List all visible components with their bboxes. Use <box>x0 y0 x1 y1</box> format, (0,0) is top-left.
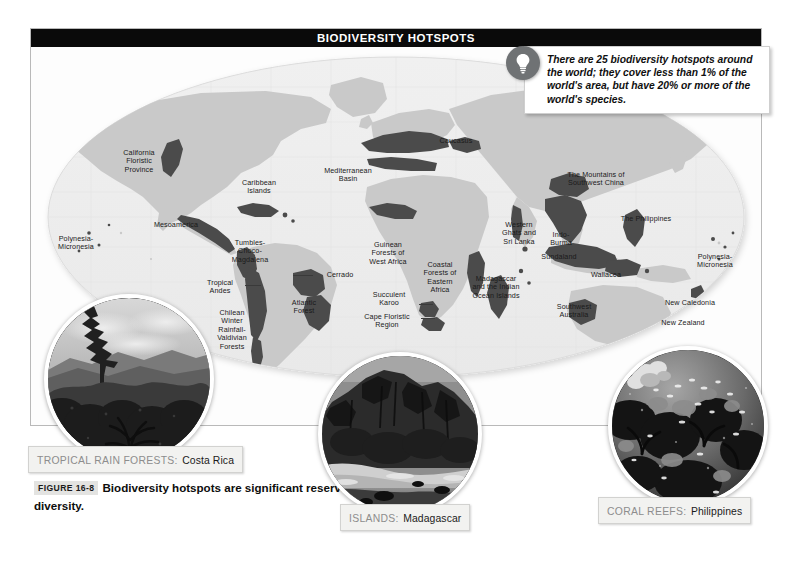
leader-line-succulent-karoo <box>419 304 433 305</box>
photo-islands <box>318 352 482 516</box>
caption-category-tropical-rain-forests: TROPICAL RAIN FORESTS: <box>37 455 178 466</box>
map-label-mesoamerica: Mesoamerica <box>136 221 216 229</box>
lightbulb-glyph <box>513 52 533 74</box>
map-label-wallacea: Wallacea <box>577 271 635 279</box>
map-label-new-zealand: New Zealand <box>647 319 719 327</box>
leader-line-cerrado <box>293 275 313 276</box>
map-label-california-floristic-province: California Floristic Province <box>99 149 179 174</box>
photo-tropical-rain-forests-image <box>48 298 210 460</box>
caption-islands: ISLANDS: Madagascar <box>340 504 470 531</box>
map-label-atlantic-forest: Atlantic Forest <box>279 299 329 316</box>
caption-tropical-rain-forests: TROPICAL RAIN FORESTS: Costa Rica <box>28 446 243 473</box>
figure-title-bar: BIODIVERSITY HOTSPOTS <box>31 29 761 47</box>
map-label-southwest-australia: Southwest Australia <box>543 303 605 320</box>
map-label-mediterranean-basin: Mediterranean Basin <box>307 167 389 184</box>
map-label-new-caledonia: New Caledonia <box>651 299 729 307</box>
map-label-caucasus: Caucasus <box>425 137 487 145</box>
photo-coral-reefs <box>608 346 768 506</box>
lightbulb-icon <box>506 46 540 80</box>
caption-category-coral-reefs: CORAL REEFS: <box>607 506 686 517</box>
map-label-succulent-karoo: Succulent Karoo <box>361 291 417 308</box>
map-label-tropical-andes: Tropical Andes <box>191 279 249 296</box>
figure-title: BIODIVERSITY HOTSPOTS <box>317 32 475 44</box>
map-label-madagascar-and-the-indian-ocean-islands: Madagascar and the Indian Ocean Islands <box>461 275 531 300</box>
map-label-polynesia-micronesia-east: Polynesia- Micronesia <box>681 253 749 270</box>
caption-coral-reefs: CORAL REEFS: Philippines <box>598 497 751 524</box>
leader-line-cape-floristic <box>421 318 435 319</box>
photo-tropical-rain-forests <box>44 294 214 464</box>
map-label-sundaland: Sundaland <box>527 253 591 261</box>
map-label-polynesia-micronesia-west: Polynesia- Micronesia <box>41 235 111 252</box>
photo-coral-reefs-image <box>612 350 764 502</box>
figure-number-badge: FIGURE 16-8 <box>34 481 98 495</box>
map-label-indo-burma: Indo- Burma <box>539 231 583 248</box>
callout-box: There are 25 biodiversity hotspots aroun… <box>524 46 770 114</box>
map-label-cerrado: Cerrado <box>315 271 365 279</box>
map-label-cape-floristic-region: Cape Floristic Region <box>353 313 421 330</box>
caption-category-islands: ISLANDS: <box>349 513 399 524</box>
map-label-the-philippines: The Philippines <box>607 215 685 223</box>
caption-place-tropical-rain-forests: Costa Rica <box>182 455 234 466</box>
caption-place-coral-reefs: Philippines <box>691 506 742 517</box>
map-label-tumbles-choco-magdalena: Tumbles- Choco- Magdalena <box>213 239 287 264</box>
map-label-caribbean-islands: Caribbean Islands <box>221 179 297 196</box>
map-label-the-mountains-of-southwest-china: The Mountains of Southwest China <box>549 171 643 188</box>
photo-islands-image <box>322 356 478 512</box>
caption-place-islands: Madagascar <box>403 513 461 524</box>
callout-text: There are 25 biodiversity hotspots aroun… <box>547 53 761 106</box>
map-label-chilean-winter-rainfall-valdivian-forests: Chilean Winter Rainfall- Valdivian Fores… <box>203 309 261 351</box>
